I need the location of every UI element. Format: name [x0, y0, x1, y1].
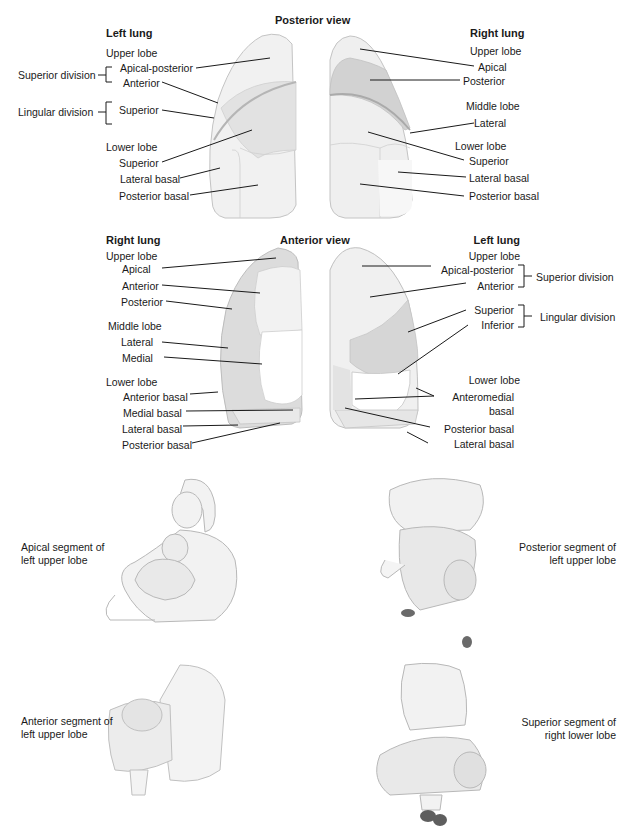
label-posterior: Posterior — [463, 75, 505, 87]
anterior-view-title: Anterior view — [280, 234, 350, 246]
posterior-view-title: Posterior view — [275, 14, 350, 26]
caption-superior-segment: Superior segment of right lower lobe — [521, 716, 616, 742]
label-posterior-basal: Posterior basal — [119, 190, 189, 202]
label-apical: Apical — [122, 263, 151, 275]
label-apical-posterior: Apical-posterior — [120, 62, 193, 74]
caption-anterior-segment: Anterior segment of left upper lobe — [21, 715, 113, 741]
label-lateral-basal: Lateral basal — [469, 172, 529, 184]
illustration-anterior-position — [100, 660, 230, 810]
label-superior: Superior — [474, 304, 514, 316]
caption-apical-segment: Apical segment of left upper lobe — [21, 541, 104, 567]
label-apical: Apical — [478, 61, 507, 73]
anterior-right-lung-heading: Right lung — [106, 234, 160, 246]
label-upper-lobe: Upper lobe — [106, 250, 157, 262]
label-middle-lobe: Middle lobe — [108, 320, 162, 332]
label-lower-lobe: Lower lobe — [106, 376, 157, 388]
label-anterior: Anterior — [123, 77, 160, 89]
label-anteromedial-basal: basal — [489, 405, 514, 417]
label-lower-superior: Superior — [119, 157, 159, 169]
label-lateral: Lateral — [121, 336, 153, 348]
label-superior: Superior — [469, 155, 509, 167]
label-anterior: Anterior — [122, 280, 159, 292]
label-lateral-basal: Lateral basal — [122, 423, 182, 435]
anterior-left-lung-heading: Left lung — [474, 234, 520, 246]
illustration-apical-position — [95, 470, 255, 630]
label-lower-lobe: Lower lobe — [106, 141, 157, 153]
label-medial: Medial — [122, 352, 153, 364]
label-anterior: Anterior — [477, 280, 514, 292]
label-middle-lobe: Middle lobe — [466, 100, 520, 112]
label-anterior-basal: Anterior basal — [123, 391, 188, 403]
label-superior-division: Superior division — [536, 271, 614, 283]
label-posterior-basal: Posterior basal — [469, 190, 539, 202]
illustration-posterior-position — [370, 470, 500, 650]
anterior-right-lung — [220, 248, 302, 428]
label-upper-lobe: Upper lobe — [470, 45, 521, 57]
label-upper-lobe: Upper lobe — [106, 47, 157, 59]
label-superior: Superior — [119, 104, 159, 116]
posterior-right-lung — [330, 36, 412, 218]
label-posterior: Posterior — [121, 296, 163, 308]
label-inferior: Inferior — [481, 319, 514, 331]
label-anteromedial: Anteromedial — [452, 391, 514, 403]
posterior-right-lung-heading: Right lung — [470, 27, 524, 39]
lung-diagram — [0, 0, 632, 835]
label-lingular-division: Lingular division — [540, 311, 615, 323]
label-posterior-basal: Posterior basal — [122, 439, 192, 451]
label-lingular-division: Lingular division — [18, 106, 93, 118]
label-upper-lobe: Upper lobe — [469, 250, 520, 262]
caption-posterior-segment: Posterior segment of left upper lobe — [519, 541, 616, 567]
illustration-superior-position — [360, 660, 510, 830]
label-apical-posterior: Apical-posterior — [441, 264, 514, 276]
label-posterior-basal: Posterior basal — [444, 423, 514, 435]
posterior-left-lung-heading: Left lung — [106, 27, 152, 39]
label-medial-basal: Medial basal — [123, 407, 182, 419]
label-lateral: Lateral — [474, 117, 506, 129]
label-lower-lobe: Lower lobe — [455, 140, 506, 152]
label-lateral-basal: Lateral basal — [454, 438, 514, 450]
label-lateral-basal: Lateral basal — [120, 173, 180, 185]
label-superior-division: Superior division — [18, 69, 96, 81]
label-lower-lobe: Lower lobe — [469, 374, 520, 386]
anterior-left-lung — [330, 248, 418, 428]
